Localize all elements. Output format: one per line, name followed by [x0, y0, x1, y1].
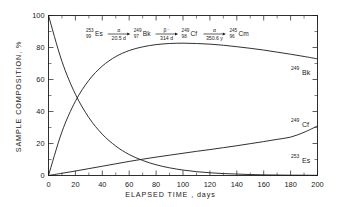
nuclide-atomic-number: 99	[86, 34, 92, 39]
series-label-253Es: 253Es	[291, 153, 311, 164]
x-tick-label: 140	[231, 180, 243, 189]
series-label-mass: 249	[291, 117, 300, 123]
curve-249Bk	[49, 43, 318, 175]
y-tick-labels: 020406080100	[32, 11, 44, 180]
x-tick-label: 80	[152, 180, 160, 189]
x-tick-label: 60	[125, 180, 133, 189]
x-tick-label: 100	[177, 180, 189, 189]
curve-253Es	[49, 16, 318, 176]
nuclide-element-symbol: Bk	[143, 30, 151, 37]
series-label-249Cf: 249Cf	[291, 117, 309, 128]
curve-249Cf	[49, 126, 318, 176]
series-label-249Bk: 249Bk	[291, 65, 311, 76]
decay-arrow-head	[127, 33, 130, 36]
y-tick-label: 100	[32, 11, 44, 20]
nuclide-atomic-number: 97	[134, 34, 140, 39]
x-tick-label: 20	[71, 180, 79, 189]
chart-plot: 020406080100 020406080100120140160180200…	[0, 0, 341, 207]
decay-arrow-head	[223, 33, 226, 36]
nuclide-atomic-number: 96	[229, 34, 235, 39]
y-tick-label: 40	[36, 107, 44, 116]
x-tick-label: 160	[258, 180, 270, 189]
plot-frame	[49, 16, 318, 176]
data-curves	[49, 16, 318, 176]
series-label-element: Bk	[302, 69, 311, 76]
half-life: 350.6 y	[206, 35, 223, 41]
series-label-mass: 249	[291, 65, 300, 71]
minor-tick-marks	[49, 16, 318, 176]
decay-chain-annotation: 25399Esα20.5 d24997Bkβ⁻314 d24998Cfα350.…	[86, 27, 249, 40]
nuclide-mass-number: 249	[182, 28, 190, 33]
nuclide-element-symbol: Cf	[191, 30, 198, 37]
decay-mode: α	[213, 27, 216, 33]
x-tick-label: 0	[46, 180, 50, 189]
x-tick-label: 120	[204, 180, 216, 189]
y-tick-label: 60	[36, 75, 44, 84]
half-life: 20.5 d	[112, 35, 127, 41]
x-tick-label: 40	[98, 180, 106, 189]
y-tick-label: 80	[36, 43, 44, 52]
y-tick-label: 0	[40, 171, 44, 180]
x-tick-label: 180	[284, 180, 296, 189]
decay-mode: α	[117, 27, 120, 33]
nuclide-element-symbol: Cm	[238, 30, 249, 37]
nuclide-element-symbol: Es	[95, 30, 103, 37]
major-tick-marks	[49, 16, 318, 176]
nuclide-mass-number: 245	[229, 28, 237, 33]
y-tick-label: 20	[36, 139, 44, 148]
series-labels: 249Bk249Cf253Es	[291, 65, 311, 164]
series-label-mass: 253	[291, 153, 300, 159]
figure-container: SAMPLE COMPOSITION, % ELAPSED TIME , day…	[0, 0, 341, 207]
nuclide-atomic-number: 98	[182, 34, 188, 39]
x-tick-labels: 020406080100120140160180200	[46, 180, 323, 189]
decay-mode: β⁻	[164, 27, 170, 33]
series-label-element: Es	[302, 157, 311, 164]
nuclide-mass-number: 249	[134, 28, 142, 33]
half-life: 314 d	[160, 35, 173, 41]
nuclide-mass-number: 253	[86, 28, 94, 33]
x-tick-label: 200	[311, 180, 323, 189]
series-label-element: Cf	[302, 121, 309, 128]
decay-arrow-head	[175, 33, 178, 36]
